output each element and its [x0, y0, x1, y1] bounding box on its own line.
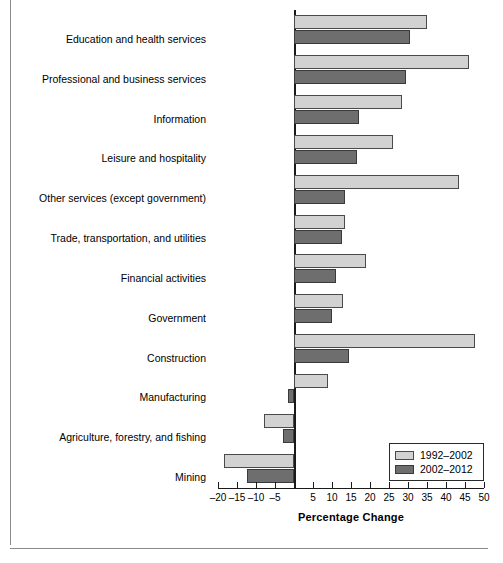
bar-series2 — [294, 150, 357, 164]
category-label: Construction — [0, 352, 218, 365]
x-tick-mark — [237, 482, 238, 488]
x-tick-mark — [313, 482, 314, 488]
bar-series2 — [294, 349, 349, 363]
x-tick-mark — [256, 482, 257, 488]
category-label: Manufacturing — [0, 391, 218, 404]
bar-series1 — [294, 294, 343, 308]
x-tick-mark — [275, 482, 276, 488]
x-axis-title: Percentage Change — [218, 511, 484, 523]
x-tick-mark — [332, 482, 333, 488]
x-tick-mark — [446, 482, 447, 488]
bar-series2 — [294, 70, 406, 84]
legend-swatch-1992-2002 — [395, 451, 414, 460]
x-tick-label: –5 — [258, 492, 292, 504]
category-label: Leisure and hospitality — [0, 152, 218, 165]
bar-series1 — [224, 454, 294, 468]
category-label: Trade, transportation, and utilities — [0, 232, 218, 245]
legend-label-1992-2002: 1992–2002 — [420, 449, 473, 461]
bar-series1 — [294, 95, 402, 109]
x-tick-mark — [370, 482, 371, 488]
bar-series1 — [294, 135, 393, 149]
category-label: Professional and business services — [0, 73, 218, 86]
category-label: Mining — [0, 471, 218, 484]
x-tick-mark — [294, 482, 295, 488]
category-label: Education and health services — [0, 33, 218, 46]
bar-series2 — [294, 190, 345, 204]
legend-label-2002-2012: 2002–2012 — [420, 463, 473, 475]
x-tick-mark — [218, 482, 219, 488]
bar-series2 — [294, 309, 332, 323]
bar-series1 — [294, 175, 459, 189]
category-label: Information — [0, 113, 218, 126]
bar-series1 — [294, 254, 366, 268]
bar-series1 — [294, 55, 469, 69]
horizontal-bar-chart: Education and health servicesProfessiona… — [0, 0, 503, 563]
bar-series2 — [294, 230, 342, 244]
category-label: Other services (except government) — [0, 192, 218, 205]
x-tick-mark — [351, 482, 352, 488]
bar-series2 — [283, 429, 294, 443]
x-tick-mark — [465, 482, 466, 488]
category-label-axis: Education and health servicesProfessiona… — [0, 10, 218, 488]
bar-series1 — [264, 414, 294, 428]
x-tick-mark — [427, 482, 428, 488]
category-label: Government — [0, 312, 218, 325]
legend-item: 2002–2012 — [395, 462, 478, 476]
bar-series1 — [294, 15, 427, 29]
bar-series2 — [247, 469, 295, 483]
bar-series1 — [294, 215, 345, 229]
bar-series1 — [294, 334, 475, 348]
x-tick-mark — [389, 482, 390, 488]
x-tick-label: 50 — [467, 492, 501, 504]
bar-series2 — [294, 269, 336, 283]
x-tick-mark — [484, 482, 485, 488]
bar-series1 — [294, 374, 328, 388]
bar-series2 — [288, 389, 294, 403]
x-axis-line — [218, 488, 484, 489]
x-tick-mark — [408, 482, 409, 488]
legend-swatch-2002-2012 — [395, 465, 414, 474]
bar-series2 — [294, 110, 359, 124]
category-label: Agriculture, forestry, and fishing — [0, 431, 218, 444]
category-label: Financial activities — [0, 272, 218, 285]
chart-legend: 1992–2002 2002–2012 — [389, 443, 484, 481]
legend-item: 1992–2002 — [395, 448, 478, 462]
plot-area — [218, 10, 484, 488]
bar-series2 — [294, 30, 410, 44]
